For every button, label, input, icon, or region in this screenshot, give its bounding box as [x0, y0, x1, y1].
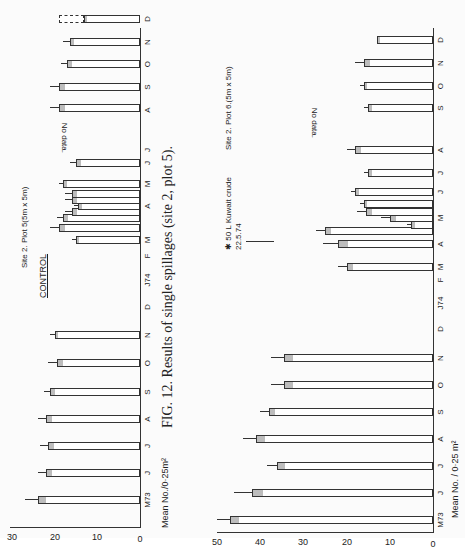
y-tick-label: 30 [298, 537, 308, 547]
std-error-band [356, 189, 359, 195]
error-bar [351, 191, 355, 192]
bar-m [347, 263, 433, 271]
y-tick-label: 0 [430, 539, 435, 549]
bar-j [368, 169, 433, 177]
error-bar [260, 411, 269, 412]
x-tick-label: S [436, 402, 445, 422]
std-error-band [365, 60, 370, 66]
chart-subtitle: Site 2. Plot 6.(5m x 5m) [224, 60, 234, 150]
std-error-band [339, 241, 348, 247]
error-bar [364, 172, 368, 173]
bar-o [284, 381, 433, 389]
bar-m73 [230, 516, 433, 524]
x-tick-label: J [436, 163, 445, 183]
error-bar [267, 465, 278, 466]
x-tick-label: J [436, 456, 445, 476]
bar-a [338, 240, 433, 248]
no-data-label: No data. [310, 108, 319, 138]
std-error-band [378, 37, 380, 43]
std-error-band [285, 355, 293, 361]
bar-o [368, 104, 433, 112]
x-axis-line [433, 28, 434, 533]
std-error-band [348, 264, 353, 270]
x-tick-label: D [436, 30, 445, 50]
error-bar [234, 492, 251, 493]
bar-j [252, 489, 433, 497]
x-tick-label: J [436, 182, 445, 202]
y-tick-label: 50 [212, 537, 222, 547]
x-tick-label: M [436, 257, 445, 277]
bar-a [355, 146, 433, 154]
x-tick-label: M73 [436, 510, 445, 530]
error-bar [271, 384, 284, 385]
bar-j [364, 200, 433, 208]
y-axis-label: Mean No. / 0·25 m² [450, 440, 460, 518]
bar-j [277, 462, 433, 470]
bar-d [364, 59, 433, 67]
x-tick-label: N [436, 53, 445, 73]
std-error-band [356, 147, 361, 153]
std-error-band [365, 201, 368, 207]
error-bar [355, 62, 364, 63]
bar-n [284, 354, 433, 362]
std-error-band [231, 517, 239, 523]
std-error-band [412, 222, 415, 228]
x-tick-label: J74 [436, 293, 445, 313]
bar-a [256, 435, 433, 443]
x-tick-label: D [436, 319, 445, 339]
error-bar [243, 438, 256, 439]
bar-j75 [377, 36, 433, 44]
y-tick-label: 20 [342, 537, 352, 547]
x-tick-label: M [436, 208, 445, 228]
error-bar [360, 85, 364, 86]
x-tick-label: A [436, 140, 445, 160]
x-tick-label: O [436, 76, 445, 96]
error-bar [357, 211, 366, 212]
std-error-band [257, 436, 265, 442]
bar-m [411, 221, 433, 229]
bar-j [366, 208, 433, 216]
y-tick-label: 10 [385, 537, 395, 547]
std-error-band [365, 83, 368, 89]
error-bar [316, 230, 325, 231]
error-bar [364, 107, 368, 108]
spill-arrow [246, 241, 274, 242]
error-bar [338, 266, 347, 267]
spill-annotation: ✱ 50 L Kuwait crude 22.5.74 [224, 160, 244, 250]
x-tick-label: O [436, 375, 445, 395]
std-error-band [367, 209, 372, 215]
std-error-band [278, 463, 284, 469]
y-axis-line [217, 532, 433, 533]
x-tick-label: N [436, 348, 445, 368]
error-bar [323, 243, 338, 244]
x-tick-label: A [436, 429, 445, 449]
error-bar [381, 217, 390, 218]
error-bar [347, 149, 356, 150]
error-bar [360, 203, 364, 204]
std-error-band [369, 105, 372, 111]
std-error-band [285, 382, 293, 388]
std-error-band [369, 170, 372, 176]
error-bar [271, 357, 284, 358]
std-error-band [270, 409, 275, 415]
std-error-band [326, 228, 331, 234]
x-tick-label: J [436, 483, 445, 503]
x-tick-label: A [436, 234, 445, 254]
y-tick-label: 40 [255, 537, 265, 547]
bar-s [269, 408, 433, 416]
bar-j [355, 188, 433, 196]
x-tick-label: S [436, 98, 445, 118]
error-bar [217, 519, 230, 520]
error-bar [407, 224, 411, 225]
bar-n [364, 82, 433, 90]
std-error-band [253, 490, 263, 496]
